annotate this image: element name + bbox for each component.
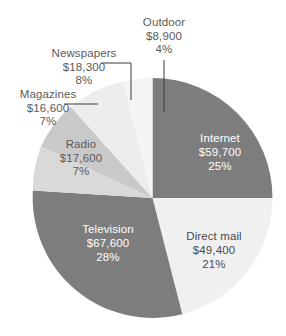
- slice-label-direct-mail-name: Direct mail: [168, 229, 260, 243]
- slice-label-internet-value: $59,700: [176, 145, 264, 159]
- slice-label-radio-value: $17,600: [44, 152, 118, 166]
- slice-label-radio: Radio $17,600 7%: [44, 138, 118, 179]
- slice-label-television-percent: 28%: [62, 250, 154, 264]
- slice-label-outdoor-value: $8,900: [118, 30, 210, 44]
- slice-label-magazines: Magazines $16,600 7%: [0, 88, 96, 129]
- slice-label-internet-name: Internet: [176, 131, 264, 145]
- slice-label-newspapers-name: Newspapers: [32, 47, 136, 61]
- slice-label-direct-mail: Direct mail $49,400 21%: [168, 229, 260, 271]
- slice-label-newspapers: Newspapers $18,300 8%: [32, 47, 136, 88]
- slice-label-television-value: $67,600: [62, 236, 154, 250]
- slice-label-television: Television $67,600 28%: [62, 222, 154, 264]
- pie-chart: Outdoor $8,900 4% Newspapers $18,300 8% …: [0, 0, 286, 336]
- slice-label-direct-mail-value: $49,400: [168, 243, 260, 257]
- slice-label-direct-mail-percent: 21%: [168, 257, 260, 271]
- slice-label-newspapers-value: $18,300: [32, 61, 136, 75]
- slice-label-internet: Internet $59,700 25%: [176, 131, 264, 173]
- slice-label-newspapers-percent: 8%: [32, 74, 136, 88]
- slice-label-magazines-value: $16,600: [0, 102, 96, 116]
- slice-label-internet-percent: 25%: [176, 159, 264, 173]
- slice-label-radio-name: Radio: [44, 138, 118, 152]
- slice-label-magazines-name: Magazines: [0, 88, 96, 102]
- slice-label-outdoor-name: Outdoor: [118, 16, 210, 30]
- slice-label-television-name: Television: [62, 222, 154, 236]
- slice-label-magazines-percent: 7%: [0, 115, 96, 129]
- slice-label-radio-percent: 7%: [44, 165, 118, 179]
